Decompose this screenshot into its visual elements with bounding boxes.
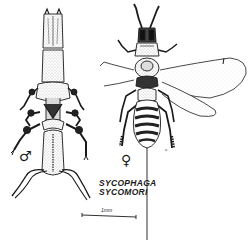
scale-bar-label: 1mm [101,207,112,213]
female-symbol: ♀ [121,153,131,167]
fig-wasp-illustration [0,0,252,244]
male-symbol: ♂ [19,149,32,163]
species-epithet-label: SYCOMORI [99,188,148,197]
scale-bar [82,213,136,219]
part-label: a [165,147,167,152]
female-wasp [100,4,246,240]
male-wasp [11,9,90,200]
